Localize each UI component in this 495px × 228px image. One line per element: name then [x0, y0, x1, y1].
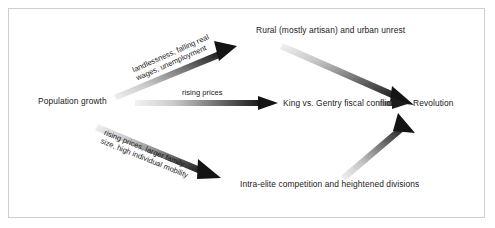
edge-label-rising-prices: rising prices: [182, 88, 223, 97]
node-population-growth: Population growth: [38, 97, 107, 106]
node-king-gentry-fiscal-conflict: King vs. Gentry fiscal conflict: [283, 99, 393, 108]
diagram-canvas: Population growth Rural (mostly artisan)…: [0, 0, 495, 228]
node-revolution: Revolution: [413, 99, 454, 108]
node-rural-urban-unrest: Rural (mostly artisan) and urban unrest: [256, 26, 405, 35]
node-intra-elite-competition: Intra-elite competition and heightened d…: [240, 180, 419, 189]
